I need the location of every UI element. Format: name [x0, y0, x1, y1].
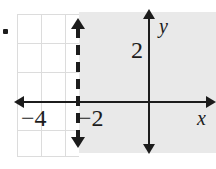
boundary-up-arrow-icon	[71, 18, 85, 29]
gridline-horizontal	[17, 72, 79, 73]
x-tick-label-neg2: −2	[78, 106, 104, 130]
down-arrow-icon	[143, 144, 155, 154]
gridline-vertical	[41, 14, 42, 157]
up-arrow-icon	[143, 9, 155, 19]
boundary-down-arrow-icon	[71, 137, 85, 148]
gridline-horizontal	[17, 43, 79, 44]
gridline-vertical	[17, 14, 18, 157]
graph-figure: −4 −2 2 x y	[0, 0, 216, 169]
x-axis-label: x	[197, 108, 206, 128]
x-axis	[22, 101, 211, 103]
grid-panel	[17, 14, 79, 157]
y-tick-label-2: 2	[131, 38, 143, 62]
gridline-horizontal	[17, 156, 79, 157]
gridline-vertical	[65, 14, 66, 157]
y-axis-label: y	[159, 16, 168, 36]
bullet-marker-icon	[3, 29, 8, 34]
right-arrow-icon	[206, 96, 216, 108]
y-axis	[148, 18, 150, 146]
x-tick-label-neg4: −4	[21, 106, 47, 130]
gridline-horizontal	[17, 14, 79, 15]
